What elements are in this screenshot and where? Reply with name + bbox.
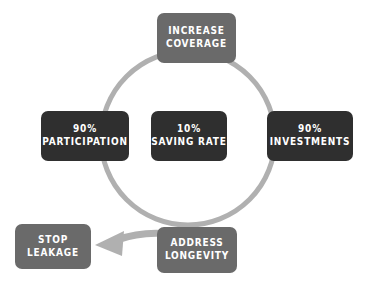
node-saving-rate-line-2: SAVING RATE [151, 136, 226, 149]
node-saving-rate[interactable]: 10% SAVING RATE [151, 111, 227, 161]
node-address-longevity-line-2: LONGEVITY [165, 250, 229, 263]
node-stop-leakage-line-1: STOP [38, 234, 68, 247]
node-increase-coverage-line-1: INCREASE [168, 25, 225, 38]
node-address-longevity-line-1: ADDRESS [170, 237, 223, 250]
outflow-arrow-head [95, 231, 124, 256]
node-investments-line-2: INVESTMENTS [270, 136, 351, 149]
node-participation-line-2: PARTICIPATION [42, 136, 127, 149]
node-increase-coverage-line-2: COVERAGE [166, 38, 227, 51]
node-participation-line-1: 90% [73, 123, 97, 136]
node-investments[interactable]: 90% INVESTMENTS [267, 111, 353, 161]
node-investments-line-1: 90% [298, 123, 322, 136]
node-participation[interactable]: 90% PARTICIPATION [41, 111, 129, 161]
cycle-diagram: INCREASE COVERAGE 90% PARTICIPATION 10% … [0, 0, 366, 287]
node-saving-rate-line-1: 10% [177, 123, 201, 136]
node-stop-leakage-line-2: LEAKAGE [27, 247, 79, 260]
node-increase-coverage[interactable]: INCREASE COVERAGE [157, 13, 236, 63]
node-address-longevity[interactable]: ADDRESS LONGEVITY [157, 227, 237, 273]
node-stop-leakage[interactable]: STOP LEAKAGE [15, 224, 91, 269]
